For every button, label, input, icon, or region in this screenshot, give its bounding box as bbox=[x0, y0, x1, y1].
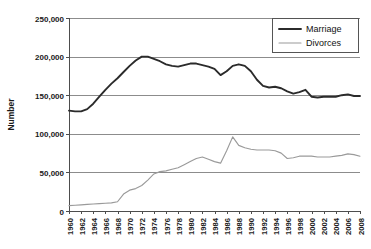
x-tick-label: 1976 bbox=[163, 218, 172, 235]
y-tick-label: 200,000 bbox=[35, 53, 64, 62]
legend-label-divorces: Divorces bbox=[306, 38, 342, 48]
x-tick-label: 2006 bbox=[344, 218, 353, 235]
line-chart: 050,000100,000150,000200,000250,000Numbe… bbox=[0, 0, 371, 249]
x-tick-label: 1988 bbox=[235, 218, 244, 235]
y-tick-label: 0 bbox=[60, 208, 65, 217]
legend-label-marriage: Marriage bbox=[306, 24, 342, 34]
x-tick-label: 2002 bbox=[320, 218, 329, 235]
series-line-divorces bbox=[69, 137, 360, 206]
x-tick-label: 1980 bbox=[187, 218, 196, 235]
x-tick-label: 1960 bbox=[66, 218, 75, 235]
x-tick-label: 1970 bbox=[126, 218, 135, 235]
x-tick-label: 1982 bbox=[199, 218, 208, 235]
x-tick-label: 1998 bbox=[296, 218, 305, 235]
x-tick-label: 2000 bbox=[308, 218, 317, 235]
x-tick-label: 1962 bbox=[78, 218, 87, 235]
y-tick-label: 150,000 bbox=[35, 92, 64, 101]
x-tick-label: 1974 bbox=[150, 217, 159, 235]
x-tick-label: 2004 bbox=[332, 217, 341, 235]
x-tick-label: 1990 bbox=[247, 218, 256, 235]
x-tick-label: 1996 bbox=[284, 218, 293, 235]
x-tick-label: 1986 bbox=[223, 218, 232, 235]
x-tick-label: 1972 bbox=[138, 218, 147, 235]
y-tick-label: 250,000 bbox=[35, 15, 64, 24]
x-tick-label: 1978 bbox=[175, 218, 184, 235]
y-axis-title: Number bbox=[6, 98, 16, 131]
x-tick-label: 2008 bbox=[357, 218, 366, 235]
x-tick-label: 1966 bbox=[102, 218, 111, 235]
series-line-marriage bbox=[69, 57, 360, 112]
chart-container: 050,000100,000150,000200,000250,000Numbe… bbox=[0, 0, 371, 249]
x-tick-label: 1968 bbox=[114, 218, 123, 235]
x-tick-label: 1964 bbox=[90, 217, 99, 235]
x-tick-label: 1994 bbox=[272, 217, 281, 235]
x-tick-label: 1992 bbox=[260, 218, 269, 235]
y-tick-label: 50,000 bbox=[40, 169, 65, 178]
x-tick-label: 1984 bbox=[211, 217, 220, 235]
y-tick-label: 100,000 bbox=[35, 130, 64, 139]
